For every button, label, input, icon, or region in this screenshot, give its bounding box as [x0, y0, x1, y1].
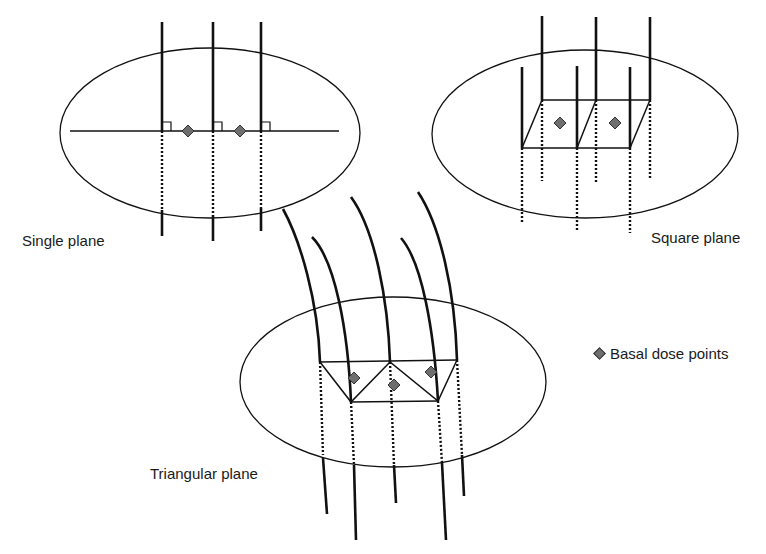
- dose-point-marker: [234, 125, 246, 137]
- dose-point-marker: [554, 117, 566, 129]
- single-plane-label: Single plane: [22, 232, 105, 249]
- dose-point-marker: [182, 125, 194, 137]
- implant-planes-diagram: [0, 0, 766, 554]
- dose-point-marker: [388, 379, 400, 391]
- square-plane-figure: [432, 16, 738, 233]
- triangular-plane-figure: [240, 192, 546, 540]
- single-plane-figure: [60, 22, 360, 241]
- basal-dose-points: [182, 117, 621, 391]
- legend: Basal dose points: [595, 345, 728, 362]
- legend-label: Basal dose points: [610, 345, 728, 362]
- diamond-icon: [593, 347, 606, 360]
- triangular-plane-label: Triangular plane: [150, 465, 258, 482]
- square-plane-label: Square plane: [651, 229, 740, 246]
- dose-point-marker: [609, 117, 621, 129]
